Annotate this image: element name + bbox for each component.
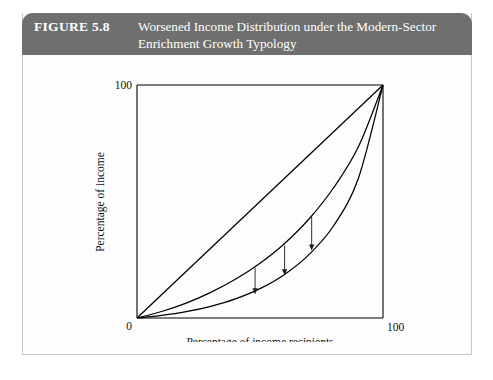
shift-arrow-2-head <box>282 269 287 275</box>
figure-title-line-1: Worsened Income Distribution under the M… <box>138 19 458 36</box>
y-axis-label: Percentage of income <box>94 152 107 252</box>
lorenz-curve-chart: 100 0 100 Percentage of income recipient… <box>0 42 493 342</box>
y-axis-tick-0: 0 <box>126 320 132 332</box>
chart-plot-area: 100 0 100 Percentage of income recipient… <box>0 42 450 342</box>
chart-series-group <box>137 85 383 318</box>
series-line-of-equality <box>137 85 383 318</box>
x-axis-label: Percentage of income recipients <box>186 336 334 342</box>
y-axis-tick-100: 100 <box>115 79 133 91</box>
shift-arrows-group <box>252 217 314 294</box>
figure-number-label: FIGURE 5.8 <box>22 17 138 35</box>
x-axis-tick-100: 100 <box>387 321 405 333</box>
